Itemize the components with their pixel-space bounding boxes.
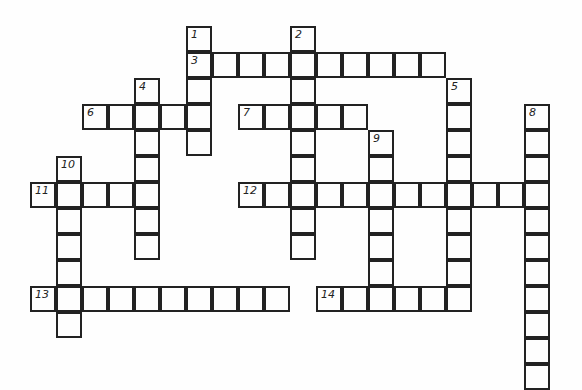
clue-number: 5 [451,81,458,93]
crossword-cell[interactable] [524,130,550,156]
crossword-cell[interactable]: 11 [30,182,56,208]
crossword-cell[interactable] [108,104,134,130]
crossword-cell[interactable] [524,260,550,286]
crossword-cell[interactable]: 14 [316,286,342,312]
crossword-cell[interactable] [134,104,160,130]
crossword-cell[interactable] [290,234,316,260]
crossword-cell[interactable] [264,52,290,78]
crossword-cell[interactable]: 7 [238,104,264,130]
crossword-cell[interactable] [420,286,446,312]
clue-number: 7 [243,107,250,119]
crossword-cell[interactable] [186,130,212,156]
crossword-cell[interactable] [134,286,160,312]
crossword-cell[interactable] [524,338,550,364]
crossword-cell[interactable] [394,52,420,78]
crossword-cell[interactable] [56,286,82,312]
crossword-cell[interactable] [342,286,368,312]
crossword-cell[interactable] [264,104,290,130]
crossword-cell[interactable] [212,52,238,78]
crossword-cell[interactable] [160,286,186,312]
crossword-cell[interactable] [342,104,368,130]
crossword-cell[interactable] [56,260,82,286]
clue-number: 12 [243,185,257,197]
crossword-cell[interactable] [368,182,394,208]
crossword-cell[interactable] [290,104,316,130]
crossword-cell[interactable] [420,52,446,78]
crossword-cell[interactable]: 9 [368,130,394,156]
clue-number: 6 [87,107,94,119]
crossword-cell[interactable] [446,208,472,234]
crossword-cell[interactable] [56,312,82,338]
crossword-cell[interactable]: 3 [186,52,212,78]
clue-number: 13 [35,289,49,301]
crossword-cell[interactable] [368,208,394,234]
crossword-cell[interactable] [134,234,160,260]
crossword-cell[interactable]: 5 [446,78,472,104]
crossword-cell[interactable]: 8 [524,104,550,130]
crossword-cell[interactable] [56,234,82,260]
crossword-cell[interactable] [134,130,160,156]
crossword-cell[interactable]: 10 [56,156,82,182]
crossword-cell[interactable] [420,182,446,208]
crossword-cell[interactable] [264,286,290,312]
crossword-cell[interactable]: 13 [30,286,56,312]
crossword-cell[interactable] [238,52,264,78]
crossword-cell[interactable]: 4 [134,78,160,104]
crossword-cell[interactable] [290,52,316,78]
crossword-cell[interactable] [368,156,394,182]
crossword-cell[interactable] [524,182,550,208]
crossword-cell[interactable] [134,182,160,208]
crossword-cell[interactable] [82,286,108,312]
crossword-cell[interactable] [446,260,472,286]
crossword-cell[interactable] [446,286,472,312]
crossword-cell[interactable] [342,182,368,208]
crossword-cell[interactable] [446,182,472,208]
crossword-cell[interactable] [524,312,550,338]
crossword-cell[interactable] [134,156,160,182]
crossword-cell[interactable] [212,286,238,312]
crossword-cell[interactable] [446,234,472,260]
crossword-cell[interactable] [56,208,82,234]
crossword-cell[interactable] [264,182,290,208]
crossword-cell[interactable] [108,286,134,312]
crossword-cell[interactable] [524,156,550,182]
crossword-cell[interactable] [368,260,394,286]
crossword-cell[interactable] [316,52,342,78]
crossword-cell[interactable]: 1 [186,26,212,52]
crossword-cell[interactable] [316,104,342,130]
crossword-cell[interactable] [290,156,316,182]
crossword-cell[interactable] [186,104,212,130]
crossword-cell[interactable] [290,78,316,104]
crossword-cell[interactable] [368,286,394,312]
crossword-cell[interactable] [446,130,472,156]
crossword-cell[interactable]: 6 [82,104,108,130]
crossword-cell[interactable] [524,364,550,390]
crossword-cell[interactable] [524,208,550,234]
crossword-cell[interactable]: 12 [238,182,264,208]
crossword-cell[interactable] [56,182,82,208]
crossword-cell[interactable] [368,234,394,260]
crossword-cell[interactable] [498,182,524,208]
crossword-cell[interactable] [316,182,342,208]
crossword-cell[interactable]: 2 [290,26,316,52]
crossword-cell[interactable] [82,182,108,208]
crossword-cell[interactable] [290,182,316,208]
crossword-cell[interactable] [160,104,186,130]
crossword-cell[interactable] [186,78,212,104]
crossword-cell[interactable] [108,182,134,208]
crossword-cell[interactable] [472,182,498,208]
crossword-cell[interactable] [342,52,368,78]
crossword-cell[interactable] [524,234,550,260]
crossword-cell[interactable] [290,130,316,156]
crossword-cell[interactable] [238,286,264,312]
crossword-cell[interactable] [446,104,472,130]
crossword-cell[interactable] [368,52,394,78]
crossword-cell[interactable] [290,208,316,234]
crossword-cell[interactable] [446,156,472,182]
crossword-cell[interactable] [134,208,160,234]
crossword-cell[interactable] [394,286,420,312]
crossword-cell[interactable] [524,286,550,312]
crossword-cell[interactable] [394,182,420,208]
clue-number: 9 [373,133,380,145]
crossword-cell[interactable] [186,286,212,312]
